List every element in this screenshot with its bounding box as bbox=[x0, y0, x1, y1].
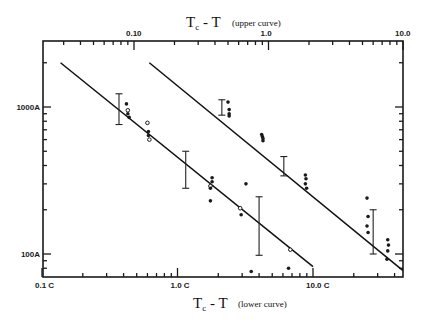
data-point bbox=[147, 134, 151, 138]
data-point bbox=[210, 176, 214, 180]
data-point bbox=[386, 238, 390, 242]
axis-ticks bbox=[42, 41, 403, 277]
data-point bbox=[287, 266, 291, 270]
data-point bbox=[125, 102, 129, 106]
data-point bbox=[209, 199, 213, 203]
data-point bbox=[261, 139, 265, 143]
data-point bbox=[385, 258, 389, 262]
data-point bbox=[148, 138, 152, 142]
top-tick-label: 1.0 bbox=[261, 29, 273, 38]
bottom-tick-label: 10.0 C bbox=[306, 281, 330, 290]
data-point bbox=[305, 186, 309, 190]
data-point bbox=[249, 270, 253, 274]
data-point bbox=[304, 177, 308, 181]
data-point bbox=[226, 100, 230, 104]
data-point bbox=[126, 112, 130, 116]
data-point bbox=[365, 224, 369, 228]
data-point bbox=[146, 121, 150, 125]
top-axis-title: Tc - T bbox=[186, 14, 221, 32]
data-point bbox=[289, 248, 293, 252]
data-point bbox=[244, 182, 248, 186]
data-point bbox=[227, 114, 231, 118]
bottom-axis-note: (lower curve) bbox=[238, 299, 287, 309]
data-point bbox=[210, 180, 214, 184]
data-point bbox=[366, 215, 370, 219]
data-point bbox=[126, 108, 130, 112]
data-point bbox=[147, 130, 151, 134]
top-tick-label: 10.0 bbox=[395, 29, 411, 38]
y-tick-label: 1000A bbox=[16, 103, 40, 112]
data-point bbox=[238, 206, 242, 210]
data-point bbox=[304, 173, 308, 177]
bottom-axis-title: Tc - T bbox=[193, 295, 228, 313]
data-point bbox=[387, 243, 391, 247]
fit-lines bbox=[61, 63, 403, 271]
critical-temperature-loglog-chart: Tc - T (upper curve) Tc - T (lower curve… bbox=[0, 0, 424, 323]
data-point bbox=[366, 231, 370, 235]
bottom-tick-label: 1.0 C bbox=[171, 281, 190, 290]
top-curve-fit-line bbox=[149, 63, 403, 271]
top-tick-label: 0.10 bbox=[126, 29, 142, 38]
data-point bbox=[227, 108, 231, 112]
bottom-tick-label: 0.1 C bbox=[35, 281, 54, 290]
data-point bbox=[209, 186, 213, 190]
data-point bbox=[386, 249, 390, 253]
data-points bbox=[125, 100, 391, 273]
error-bars bbox=[115, 94, 376, 256]
axis-tick-labels: 0.1 C1.0 C10.0 C0.101.010.0100A1000A bbox=[16, 29, 411, 290]
data-point bbox=[365, 196, 369, 200]
data-point bbox=[127, 116, 131, 120]
data-point bbox=[239, 213, 243, 217]
data-point bbox=[304, 182, 308, 186]
top-axis-note: (upper curve) bbox=[232, 18, 281, 28]
y-tick-label: 100A bbox=[21, 250, 40, 259]
plot-frame bbox=[43, 41, 403, 277]
